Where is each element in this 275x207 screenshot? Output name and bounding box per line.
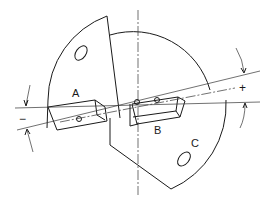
minus-sign: − <box>19 112 26 126</box>
label-c: C <box>191 137 199 149</box>
label-a: A <box>72 87 80 99</box>
upper-hole <box>72 44 89 63</box>
label-b: B <box>154 124 161 136</box>
left-angle-arrow-top <box>26 85 30 105</box>
upper-left-sector-edge <box>107 16 120 118</box>
lower-hole <box>175 150 193 169</box>
plus-sign: + <box>239 81 246 95</box>
pin-axis-line <box>60 88 235 122</box>
right-angle-arrow-top <box>236 48 244 72</box>
tilted-reference-line <box>17 71 260 130</box>
diagram-canvas: − + A B C <box>0 0 275 207</box>
right-angle-arrow-bottom <box>240 104 245 128</box>
upper-left-sector-outline <box>47 16 107 128</box>
left-arrowhead-top <box>24 100 28 106</box>
main-disc-arc <box>110 32 210 90</box>
lower-sector-edge <box>110 145 171 189</box>
